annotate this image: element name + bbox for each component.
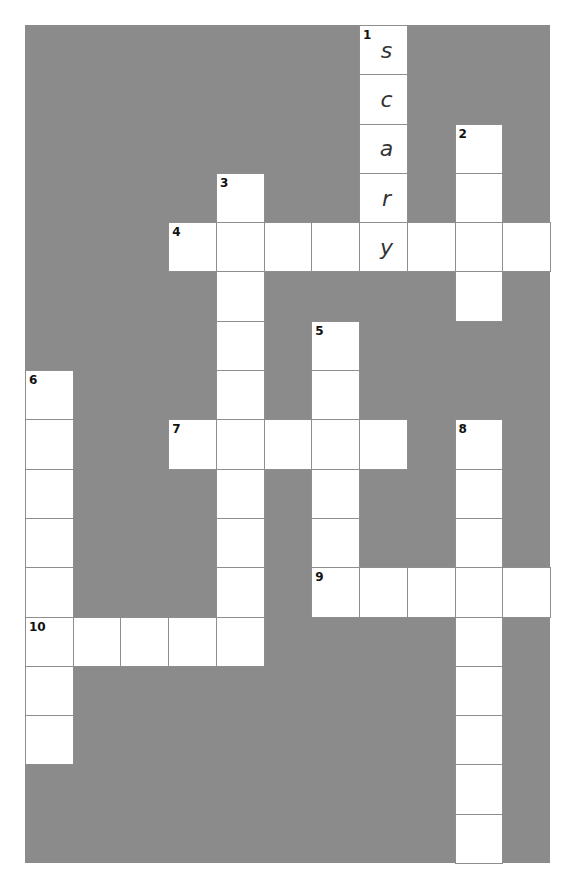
crossword-cell[interactable]: 7 — [168, 419, 217, 469]
crossword-cell[interactable] — [311, 370, 360, 420]
crossword-cell[interactable]: c — [359, 74, 408, 124]
crossword-cell[interactable] — [216, 370, 265, 420]
crossword-cell[interactable]: 4 — [168, 222, 217, 272]
crossword-cell[interactable] — [168, 617, 217, 667]
crossword-cell[interactable] — [264, 222, 313, 272]
clue-number: 8 — [459, 423, 467, 435]
crossword-cell[interactable] — [25, 469, 74, 519]
crossword-cell[interactable] — [25, 715, 74, 765]
crossword-cell[interactable] — [216, 617, 265, 667]
crossword-cell[interactable]: 6 — [25, 370, 74, 420]
crossword-cell[interactable]: r — [359, 173, 408, 223]
crossword-cell[interactable] — [455, 271, 504, 321]
cell-letter: s — [360, 26, 407, 74]
crossword-cell[interactable] — [73, 617, 122, 667]
crossword-cell[interactable] — [455, 764, 504, 814]
clue-number: 10 — [29, 621, 46, 633]
crossword-cell[interactable]: 8 — [455, 419, 504, 469]
crossword-cell[interactable]: 2 — [455, 124, 504, 174]
crossword-cell[interactable] — [25, 518, 74, 568]
clue-number: 5 — [315, 325, 323, 337]
crossword-cell[interactable] — [502, 222, 551, 272]
crossword-cell[interactable] — [264, 419, 313, 469]
crossword-cell[interactable] — [407, 222, 456, 272]
crossword-cell[interactable] — [455, 518, 504, 568]
crossword-cell[interactable] — [455, 469, 504, 519]
crossword-cell[interactable] — [216, 271, 265, 321]
crossword-cell[interactable]: y — [359, 222, 408, 272]
crossword-cell[interactable] — [216, 567, 265, 617]
cell-letter: r — [360, 174, 407, 222]
cell-letter: a — [360, 125, 407, 173]
crossword-cell[interactable] — [311, 419, 360, 469]
crossword-cell[interactable] — [455, 666, 504, 716]
crossword-cell[interactable] — [455, 617, 504, 667]
clue-number: 2 — [459, 128, 467, 140]
crossword-cell[interactable] — [216, 321, 265, 371]
clue-number: 6 — [29, 374, 37, 386]
crossword-cell[interactable] — [455, 567, 504, 617]
crossword-cell[interactable]: 9 — [311, 567, 360, 617]
crossword-cell[interactable] — [407, 567, 456, 617]
crossword-cell[interactable]: 1s — [359, 25, 408, 75]
crossword-cell[interactable] — [25, 666, 74, 716]
clue-number: 7 — [172, 423, 180, 435]
crossword-cell[interactable] — [455, 173, 504, 223]
crossword-cell[interactable]: 5 — [311, 321, 360, 371]
crossword-cell[interactable] — [311, 469, 360, 519]
clue-number: 4 — [172, 226, 180, 238]
crossword-cell[interactable]: 10 — [25, 617, 74, 667]
clue-number: 3 — [220, 177, 228, 189]
crossword-cell[interactable] — [216, 419, 265, 469]
crossword-cell[interactable] — [455, 814, 504, 864]
crossword-cell[interactable] — [311, 518, 360, 568]
crossword-cell[interactable] — [359, 567, 408, 617]
crossword-cell[interactable] — [216, 222, 265, 272]
clue-number: 9 — [315, 571, 323, 583]
crossword-cell[interactable] — [311, 222, 360, 272]
crossword-cell[interactable] — [25, 419, 74, 469]
crossword-cell[interactable] — [359, 419, 408, 469]
crossword-cell[interactable] — [502, 567, 551, 617]
crossword-cell[interactable] — [216, 518, 265, 568]
crossword-grid: 1scary2345961078 — [25, 25, 550, 863]
crossword-cell[interactable] — [216, 469, 265, 519]
crossword-cell[interactable]: 3 — [216, 173, 265, 223]
cell-letter: c — [360, 75, 407, 123]
cell-letter: y — [360, 223, 407, 271]
crossword-cell[interactable] — [455, 222, 504, 272]
crossword-cell[interactable] — [455, 715, 504, 765]
crossword-cell[interactable] — [25, 567, 74, 617]
crossword-cell[interactable]: a — [359, 124, 408, 174]
crossword-cell[interactable] — [120, 617, 169, 667]
